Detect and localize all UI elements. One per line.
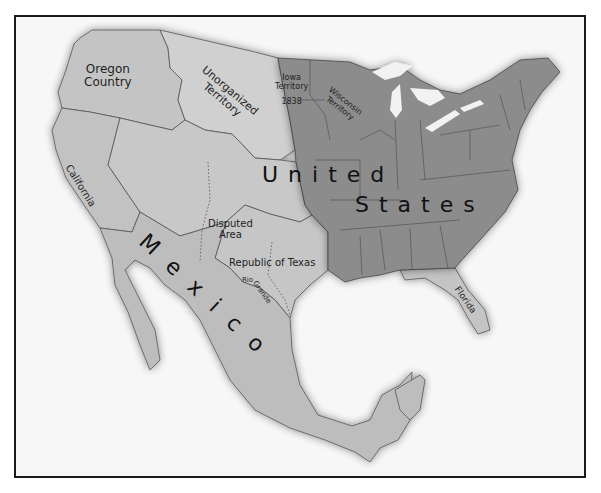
florida-region — [400, 268, 490, 334]
label-oregon-line2: Country — [84, 76, 132, 89]
label-disputed-area: Disputed Area — [208, 218, 253, 240]
label-iowa-line2: Territory — [275, 83, 308, 92]
label-iowa-year: 1838 — [275, 98, 308, 107]
label-disputed-line2: Area — [208, 229, 253, 240]
label-iowa-territory: Iowa Territory 1838 — [275, 74, 308, 106]
label-united: United — [262, 164, 394, 186]
label-oregon-country: Oregon Country — [84, 63, 132, 89]
label-republic-of-texas: Republic of Texas — [229, 258, 315, 268]
label-disputed-line1: Disputed — [208, 218, 253, 229]
label-states: States — [355, 194, 485, 216]
